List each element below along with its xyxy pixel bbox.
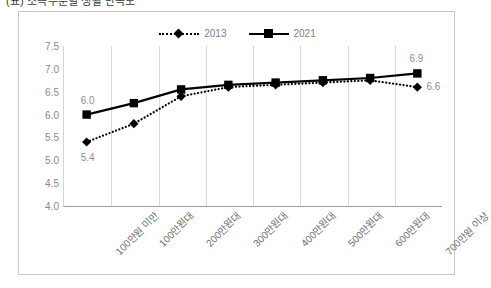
data-point-marker[interactable] (130, 99, 138, 107)
x-tick-label: 200만원대 (202, 208, 243, 249)
data-point-marker[interactable] (366, 74, 374, 82)
data-point-marker[interactable] (319, 76, 327, 84)
point-value-label: 6.9 (409, 53, 423, 64)
x-tick-label: 100만원 미만 (111, 208, 161, 258)
x-tick-label: 700만원 이상 (442, 208, 491, 258)
chart-frame: 2013 2021 7.57.06.56.05.55.04.54.0 6.05.… (18, 11, 455, 275)
x-tick-label: 100만원대 (155, 208, 196, 249)
plot-wrapper: 7.57.06.56.05.55.04.54.0 6.05.46.96.6 10… (19, 12, 456, 276)
data-point-marker[interactable] (82, 110, 90, 118)
series-line-2013 (87, 80, 418, 142)
y-axis: 7.57.06.56.05.55.04.54.0 (33, 46, 59, 206)
data-point-marker[interactable] (82, 137, 91, 146)
y-tick-label: 5.5 (45, 132, 59, 143)
caption-text: (표) 소득수준별 생활 만족도 (6, 0, 136, 8)
x-tick-label: 500만원대 (344, 208, 385, 249)
data-point-marker[interactable] (413, 83, 422, 92)
y-tick-label: 5.0 (45, 155, 59, 166)
point-value-label: 6.6 (426, 81, 440, 92)
y-tick-label: 6.0 (45, 109, 59, 120)
point-value-label: 6.0 (81, 95, 95, 106)
data-point-marker[interactable] (413, 69, 421, 77)
data-point-marker[interactable] (177, 85, 185, 93)
point-value-label: 5.4 (81, 152, 95, 163)
series-layer (63, 46, 441, 206)
x-axis: 100만원 미만100만원대200만원대300만원대400만원대500만원대60… (63, 208, 441, 274)
y-tick-label: 7.0 (45, 63, 59, 74)
x-tick-label: 600만원대 (391, 208, 432, 249)
y-tick-label: 6.5 (45, 86, 59, 97)
y-tick-label: 4.5 (45, 178, 59, 189)
caption-strip: (표) 소득수준별 생활 만족도 (0, 0, 472, 11)
x-tick-label: 300만원대 (249, 208, 290, 249)
y-tick-label: 7.5 (45, 41, 59, 52)
data-point-marker[interactable] (224, 81, 232, 89)
y-tick-label: 4.0 (45, 201, 59, 212)
data-point-marker[interactable] (129, 119, 138, 128)
data-point-marker[interactable] (271, 78, 279, 86)
x-tick-label: 400만원대 (296, 208, 337, 249)
